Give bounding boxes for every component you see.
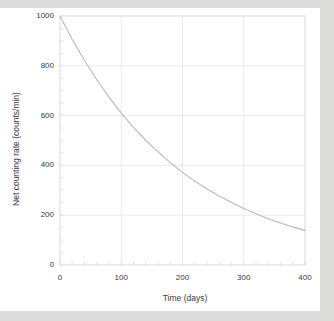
x-tick-label: 200 <box>168 273 198 282</box>
background-band-bottom <box>0 311 334 321</box>
x-tick-label: 0 <box>45 273 75 282</box>
x-axis-title: Time (days) <box>60 293 310 303</box>
y-tick-label: 0 <box>24 260 54 269</box>
y-axis-title: Net counting rate (counts/min) <box>11 79 21 219</box>
chart-figure: Net counting rate (counts/min) Time (day… <box>0 8 320 311</box>
y-tick-label: 400 <box>24 160 54 169</box>
y-tick-label: 800 <box>24 61 54 70</box>
x-tick-label: 100 <box>106 273 136 282</box>
grid-lines <box>60 16 305 265</box>
background-band-top <box>0 0 334 8</box>
y-tick-label: 200 <box>24 210 54 219</box>
y-tick-label: 1000 <box>24 11 54 20</box>
x-tick-label: 300 <box>229 273 259 282</box>
y-tick-label: 600 <box>24 111 54 120</box>
x-tick-label: 400 <box>290 273 320 282</box>
background-band-right <box>320 0 334 321</box>
